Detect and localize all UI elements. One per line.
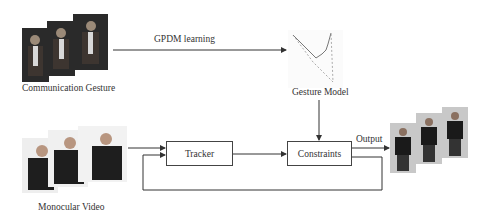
video-label: Monocular Video (38, 202, 105, 212)
tracker-box: Tracker (166, 141, 233, 166)
constraints-box: Constraints (287, 141, 352, 166)
avatar-frame-1 (390, 123, 416, 173)
avatar-frame-2 (416, 113, 442, 164)
gesture-frame-3 (73, 14, 108, 70)
tracker-label: Tracker (185, 149, 214, 159)
gpdm-learning-label: GPDM learning (154, 34, 215, 44)
gesture-frame-2 (47, 21, 75, 76)
gesture-model-plot-icon (288, 30, 343, 88)
output-label: Output (356, 134, 382, 144)
gesture-model-label: Gesture Model (292, 87, 349, 97)
video-frame-3 (78, 126, 127, 182)
avatar-frame-3 (442, 107, 468, 158)
gesture-frame-1 (22, 28, 49, 82)
gesture-label: Communication Gesture (22, 83, 115, 93)
constraints-label: Constraints (298, 149, 341, 159)
